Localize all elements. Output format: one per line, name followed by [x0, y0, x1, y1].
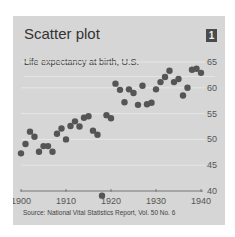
y-tick-label: 60 — [207, 83, 217, 93]
data-point — [76, 123, 82, 129]
data-point — [184, 85, 190, 91]
data-point — [153, 86, 159, 92]
data-point — [117, 87, 123, 93]
data-point — [166, 68, 172, 74]
data-point — [72, 118, 78, 124]
data-point — [121, 99, 127, 105]
data-point — [135, 102, 141, 108]
data-point — [99, 192, 105, 198]
data-point — [157, 79, 163, 85]
x-tick-label: 1910 — [56, 196, 76, 206]
data-point — [54, 131, 60, 137]
chart-card: Scatter plot 1 Life expectancy at birth,… — [13, 16, 225, 225]
data-point — [148, 100, 154, 106]
y-tick-label: 45 — [207, 160, 217, 170]
data-point — [130, 90, 136, 96]
y-tick-label: 50 — [207, 134, 217, 144]
source-note: Source: National Vital Statistics Report… — [23, 209, 175, 216]
y-tick-label: 55 — [207, 109, 217, 119]
data-point — [31, 134, 37, 140]
x-tick-label: 1900 — [13, 196, 31, 206]
scatter-plot-area: 40455055606519001910192019301940 — [13, 16, 225, 225]
data-point — [112, 80, 118, 86]
data-point — [108, 115, 114, 121]
x-tick-label: 1940 — [191, 196, 211, 206]
y-tick-label: 65 — [207, 57, 217, 67]
data-point — [45, 143, 51, 149]
data-point — [85, 113, 91, 119]
data-point — [180, 92, 186, 98]
data-point — [162, 74, 168, 80]
data-point — [175, 76, 181, 82]
data-point — [22, 141, 28, 147]
data-point — [49, 149, 55, 155]
data-point — [63, 136, 69, 142]
data-point — [67, 123, 73, 129]
data-point — [36, 149, 42, 155]
data-point — [18, 150, 24, 156]
data-point — [139, 83, 145, 89]
x-tick-label: 1930 — [146, 196, 166, 206]
data-point — [58, 125, 64, 131]
data-point — [94, 132, 100, 138]
data-point — [198, 70, 204, 76]
y-tick-label: 40 — [207, 186, 217, 196]
data-point — [27, 128, 33, 134]
